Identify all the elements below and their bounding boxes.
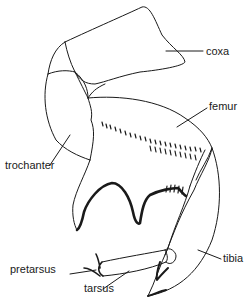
coxa-label: coxa bbox=[206, 46, 229, 57]
leg-diagram: coxa femur trochanter tibia pretarsus ta… bbox=[0, 0, 251, 301]
leader-lines bbox=[50, 51, 221, 289]
pretarsus-claws bbox=[84, 254, 103, 276]
femur-ventral-teeth bbox=[77, 183, 186, 230]
femur-tibia-joint bbox=[190, 148, 212, 186]
pretarsus-label: pretarsus bbox=[10, 264, 56, 275]
trochanter-outline bbox=[45, 72, 94, 160]
femur-label: femur bbox=[209, 101, 237, 112]
femur-leader bbox=[177, 108, 207, 127]
femur-outline bbox=[73, 97, 212, 255]
coxa-trochanter-joint bbox=[48, 42, 105, 98]
tibia-label: tibia bbox=[223, 253, 243, 264]
trochanter-label: trochanter bbox=[5, 160, 55, 171]
tibia-outline bbox=[148, 148, 220, 296]
pretarsus-leader bbox=[70, 270, 96, 274]
tarsus-label: tarsus bbox=[84, 283, 114, 294]
tibia-leader bbox=[198, 250, 221, 259]
coxa-outline bbox=[65, 7, 185, 84]
